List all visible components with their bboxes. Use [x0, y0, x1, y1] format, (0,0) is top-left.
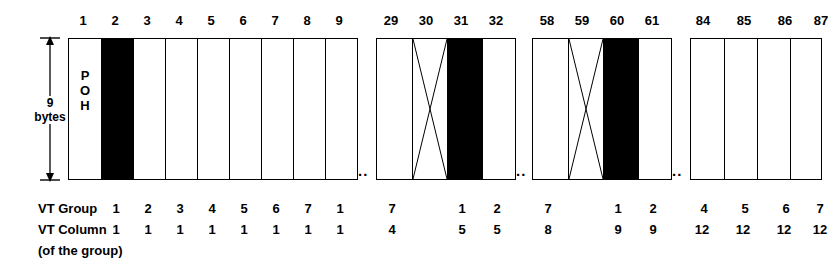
column-header-30: 30	[409, 14, 443, 28]
vt-column-value-col3: 1	[133, 222, 163, 238]
column-header-87: 87	[806, 14, 836, 28]
poh-label: P O H	[70, 68, 100, 113]
vt-group-value-col86: 6	[769, 201, 803, 217]
vt-column-row-subtitle: (of the group)	[38, 243, 122, 259]
vt-column-value-col87: 12	[803, 222, 836, 238]
vt-group-value-col32: 2	[480, 201, 514, 217]
column-header-6: 6	[228, 14, 258, 28]
cell-column-5	[197, 39, 229, 179]
vt-column-value-col2: 1	[101, 222, 131, 238]
cell-column-7	[261, 39, 293, 179]
column-header-31: 31	[444, 14, 478, 28]
frame-group-4	[690, 38, 822, 180]
vt-column-value-col58: 8	[531, 222, 565, 238]
column-header-58: 58	[530, 14, 564, 28]
column-header-29: 29	[374, 14, 408, 28]
column-header-84: 84	[686, 14, 720, 28]
vt-group-value-col4: 3	[165, 201, 195, 217]
cell-column-31	[447, 39, 482, 179]
vt-group-value-col60: 1	[601, 201, 635, 217]
cell-column-2	[101, 39, 133, 179]
column-header-2: 2	[100, 14, 130, 28]
vt-column-value-col6: 1	[229, 222, 259, 238]
cell-column-59	[568, 39, 603, 179]
vt-column-value-col84: 12	[685, 222, 719, 238]
vt-group-value-col85: 5	[728, 201, 762, 217]
vt-group-value-col3: 2	[133, 201, 163, 217]
cell-column-29	[377, 39, 412, 179]
vt-column-value-col85: 12	[726, 222, 760, 238]
column-header-61: 61	[635, 14, 669, 28]
cell-column-61	[638, 39, 673, 179]
vt-group-value-col87: 7	[805, 201, 835, 217]
column-header-9: 9	[324, 14, 354, 28]
vt-group-value-col84: 4	[687, 201, 721, 217]
separator-dots-2: ..	[516, 166, 526, 176]
cell-column-6	[229, 39, 261, 179]
vt-group-value-col6: 5	[229, 201, 259, 217]
column-header-85: 85	[727, 14, 761, 28]
column-header-86: 86	[768, 14, 802, 28]
vt-group-value-col31: 1	[445, 201, 479, 217]
vt-column-value-col86: 12	[767, 222, 801, 238]
column-header-4: 4	[164, 14, 194, 28]
vt-group-value-col5: 4	[197, 201, 227, 217]
column-header-3: 3	[132, 14, 162, 28]
vt-byte-layout-diagram: 9 bytes 1 2 3 4 5 6 7 8 9 29 30 31 32 58…	[0, 0, 836, 275]
vt-group-value-col61: 2	[636, 201, 670, 217]
column-header-7: 7	[260, 14, 290, 28]
vt-column-value-col60: 9	[601, 222, 635, 238]
cell-column-58	[533, 39, 568, 179]
vt-group-value-col58: 7	[531, 201, 565, 217]
column-header-59: 59	[565, 14, 599, 28]
vt-column-value-col31: 5	[445, 222, 479, 238]
cell-column-32	[482, 39, 517, 179]
frame-group-3	[532, 38, 672, 180]
vt-column-value-col7: 1	[261, 222, 291, 238]
cell-column-85	[724, 39, 757, 179]
cell-column-60	[603, 39, 638, 179]
vt-group-value-col29: 7	[375, 201, 409, 217]
vt-column-value-col4: 1	[165, 222, 195, 238]
cell-column-87	[790, 39, 823, 179]
vt-group-value-col7: 6	[261, 201, 291, 217]
cell-column-3	[133, 39, 165, 179]
column-header-60: 60	[600, 14, 634, 28]
cell-column-9	[325, 39, 357, 179]
cell-column-30	[412, 39, 447, 179]
cell-column-4	[165, 39, 197, 179]
cell-column-86	[757, 39, 790, 179]
vt-group-row-title: VT Group	[38, 201, 97, 217]
column-header-32: 32	[479, 14, 513, 28]
cell-column-8	[293, 39, 325, 179]
vt-group-value-col9: 1	[325, 201, 355, 217]
vt-group-value-col2: 1	[101, 201, 131, 217]
vt-column-value-col9: 1	[325, 222, 355, 238]
vt-column-value-col61: 9	[636, 222, 670, 238]
vt-column-row-title: VT Column	[38, 222, 107, 238]
column-header-1: 1	[68, 14, 98, 28]
vt-column-value-col32: 5	[480, 222, 514, 238]
frame-group-2	[376, 38, 516, 180]
cell-column-84	[691, 39, 724, 179]
column-header-8: 8	[292, 14, 322, 28]
vt-column-value-col5: 1	[197, 222, 227, 238]
frame-group-1	[68, 38, 358, 180]
vt-column-value-col29: 4	[375, 222, 409, 238]
vt-group-value-col8: 7	[293, 201, 323, 217]
separator-dots-3: ..	[672, 166, 682, 176]
cross-hatch-icon	[413, 39, 447, 179]
separator-dots-1: ..	[358, 166, 368, 176]
cross-hatch-icon	[569, 39, 603, 179]
column-header-5: 5	[196, 14, 226, 28]
vt-column-value-col8: 1	[293, 222, 323, 238]
